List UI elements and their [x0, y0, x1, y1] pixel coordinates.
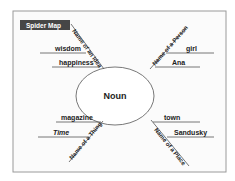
branch-place-detail-2: Sandusky [174, 129, 207, 137]
branch-person-detail-2: Ana [172, 59, 185, 66]
branch-place-detail-1: town [164, 114, 180, 121]
title-text: Spider Map [26, 22, 61, 30]
spider-map-diagram: Spider Map Noun Name of an Idea wisdom h… [0, 0, 235, 181]
branch-thing-detail-1: magazine [61, 114, 93, 122]
branch-idea-detail-1: wisdom [54, 45, 81, 52]
branch-person-detail-1: girl [186, 45, 197, 53]
branch-thing-detail-2: Time [53, 129, 69, 136]
branch-idea-detail-2: happiness [59, 59, 94, 67]
center-label: Noun [104, 91, 127, 101]
title-badge: Spider Map [20, 20, 70, 30]
